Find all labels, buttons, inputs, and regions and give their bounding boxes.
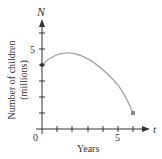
x-axis-arrow-icon — [142, 126, 150, 132]
data-curve — [42, 53, 133, 113]
end-point — [131, 111, 135, 115]
origin-label: 0 — [33, 132, 38, 143]
y-variable-label: N — [36, 5, 46, 19]
x-axis-title: Years — [77, 143, 99, 154]
x-variable-label: t — [153, 123, 157, 135]
start-point — [40, 63, 44, 67]
y-tick-label-5: 5 — [30, 44, 35, 55]
y-axis-arrow-icon — [39, 19, 45, 27]
x-tick-label-5: 5 — [115, 132, 120, 143]
y-axis-title-line1: Number of children — [6, 41, 17, 120]
y-axis-title-line2: (millions) — [18, 60, 30, 99]
y-axis-title: Number of children (millions) — [6, 41, 30, 120]
chart-canvas: N t 5 0 5 Years Number of children (mill… — [0, 0, 162, 159]
